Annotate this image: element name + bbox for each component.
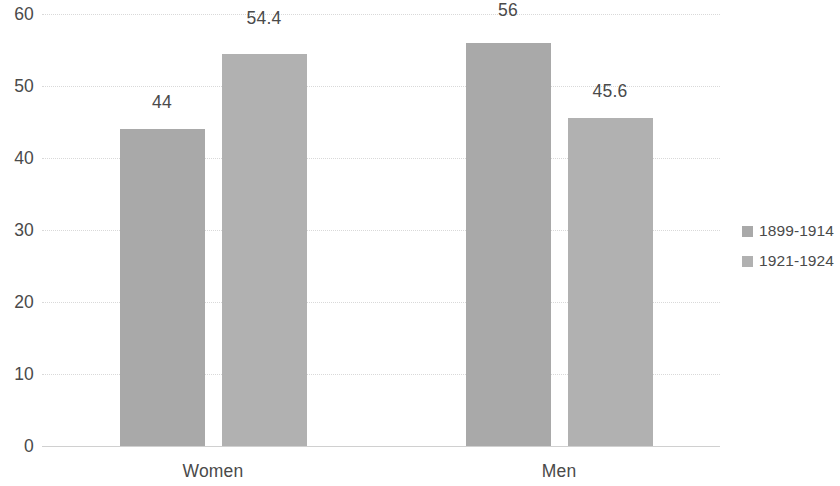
y-axis-tick-0: 0 [0,436,34,457]
legend-item-1899-1914[interactable]: 1899-1914 [742,216,834,246]
y-axis-tick-30: 30 [0,220,34,241]
y-axis-tick-50: 50 [0,76,34,97]
x-axis-label-men: Men [542,461,577,482]
legend-item-1921-1924[interactable]: 1921-1924 [742,246,834,276]
bar-value-women-1921-1924: 54.4 [247,8,282,29]
axis-baseline [42,446,720,447]
bar-men-1899-1914[interactable] [466,43,551,446]
legend: 1899-1914 1921-1924 [742,216,834,276]
bar-value-women-1899-1914: 44 [152,92,172,113]
bar-chart: 60 50 40 30 20 10 0 44 54.4 56 45.6 Wome… [0,0,840,486]
bar-women-1921-1924[interactable] [222,54,307,446]
y-axis-tick-10: 10 [0,364,34,385]
x-axis-label-women: Women [183,461,244,482]
y-axis-tick-20: 20 [0,292,34,313]
bar-men-1921-1924[interactable] [568,118,653,446]
legend-label-1899-1914: 1899-1914 [759,222,834,240]
y-axis-tick-60: 60 [0,4,34,25]
legend-swatch-icon-1921-1924 [742,256,753,267]
legend-label-1921-1924: 1921-1924 [759,252,834,270]
y-axis-tick-40: 40 [0,148,34,169]
gridline-60 [42,14,720,15]
legend-swatch-icon-1899-1914 [742,226,753,237]
bar-value-men-1899-1914: 56 [498,0,518,21]
bar-value-men-1921-1924: 45.6 [593,81,628,102]
bar-women-1899-1914[interactable] [120,129,205,446]
plot-area [42,14,720,446]
